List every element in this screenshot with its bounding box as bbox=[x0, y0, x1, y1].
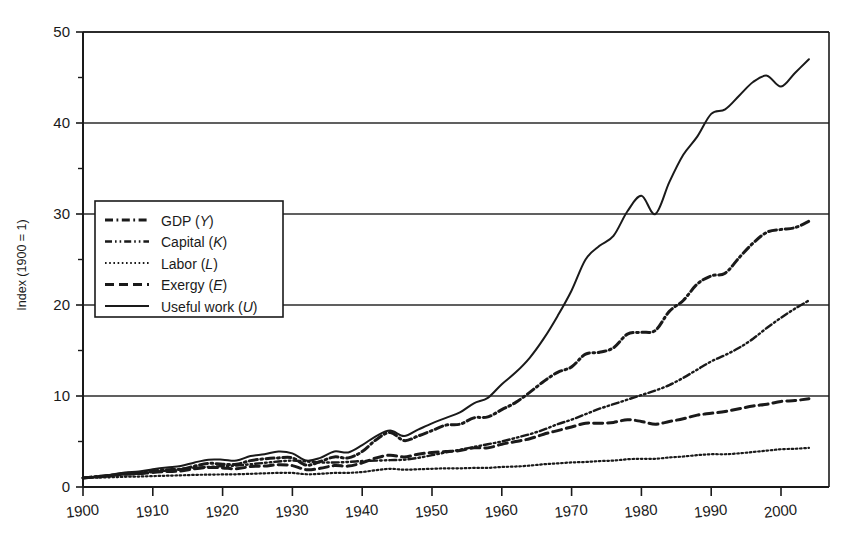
x-tick-label-2000: 2000 bbox=[763, 500, 798, 520]
x-tick-label-1960: 1960 bbox=[484, 500, 519, 520]
y-tick-label-50: 50 bbox=[53, 23, 70, 40]
chart-figure: Index (1900 = 1) 01020304050 19001910192… bbox=[0, 0, 844, 540]
y-tick-label-0: 0 bbox=[62, 478, 70, 495]
y-tick-label-30: 30 bbox=[53, 205, 70, 222]
x-tick-label-1980: 1980 bbox=[623, 500, 658, 520]
x-tick-label-1990: 1990 bbox=[693, 500, 728, 520]
chart-legend: GDP (Y)Capital (K)Labor (L)Exergy (E)Use… bbox=[95, 201, 283, 317]
x-tick-label-1900: 1900 bbox=[65, 500, 100, 520]
legend-label: Capital (K) bbox=[161, 234, 227, 250]
y-tick-label-20: 20 bbox=[53, 296, 70, 313]
x-tick-label-1920: 1920 bbox=[205, 500, 240, 520]
x-tick-label-1950: 1950 bbox=[414, 500, 449, 520]
y-tick-label-40: 40 bbox=[53, 114, 70, 131]
x-tick-label-1970: 1970 bbox=[554, 500, 589, 520]
legend-label: GDP (Y) bbox=[161, 213, 214, 229]
index-line-chart: Index (1900 = 1) 01020304050 19001910192… bbox=[0, 0, 844, 540]
legend-label: Useful work (U) bbox=[161, 299, 257, 315]
x-tick-label-1930: 1930 bbox=[274, 500, 309, 520]
x-tick-label-1940: 1940 bbox=[344, 500, 379, 520]
y-tick-label-10: 10 bbox=[53, 387, 70, 404]
y-axis-title: Index (1900 = 1) bbox=[15, 219, 29, 310]
x-tick-label-1910: 1910 bbox=[135, 500, 170, 520]
legend-label: Exergy (E) bbox=[161, 277, 227, 293]
legend-label: Labor (L) bbox=[161, 256, 218, 272]
y-axis-title-text: Index (1900 = 1) bbox=[15, 219, 29, 310]
